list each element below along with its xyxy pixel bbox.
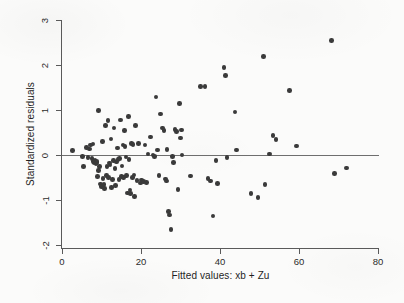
y-tick-label: -1 [38, 193, 52, 207]
data-point [177, 101, 182, 106]
data-point [267, 152, 272, 157]
data-point [109, 137, 114, 142]
data-point [188, 174, 193, 179]
data-point [144, 180, 149, 185]
data-point [100, 139, 105, 144]
data-point [91, 142, 96, 147]
data-point [249, 191, 254, 196]
y-axis-title: Standardized residuals [24, 20, 38, 248]
y-tick-label: -2 [38, 238, 52, 252]
data-point [294, 144, 299, 149]
data-point [162, 128, 167, 133]
y-tick-label: 0 [38, 148, 52, 162]
y-tick-mark [56, 110, 61, 111]
data-point [81, 164, 86, 169]
x-tick-mark [220, 249, 221, 254]
data-point [178, 136, 183, 141]
data-point [108, 163, 113, 168]
data-point [170, 154, 175, 159]
data-point [96, 168, 101, 173]
data-point [164, 179, 169, 184]
data-point [102, 186, 107, 191]
data-point [124, 173, 129, 178]
y-tick-mark [56, 200, 61, 201]
y-tick-label: 2 [38, 58, 52, 72]
data-point [110, 177, 115, 182]
data-point [123, 144, 128, 149]
data-point [263, 182, 268, 187]
data-point [132, 194, 137, 199]
data-point [167, 213, 172, 218]
data-point [115, 146, 120, 151]
data-point [332, 171, 337, 176]
data-point [233, 110, 238, 115]
data-point [152, 154, 157, 159]
data-point [122, 128, 127, 133]
x-tick-mark [62, 249, 63, 254]
data-point [143, 143, 148, 148]
y-tick-label: 3 [38, 13, 52, 27]
data-point [223, 73, 228, 78]
data-point [234, 148, 239, 153]
data-point [126, 114, 131, 119]
data-point [171, 160, 176, 165]
data-point [261, 54, 266, 59]
data-point [165, 147, 170, 152]
data-point [133, 123, 138, 128]
x-tick-label: 60 [294, 256, 305, 267]
data-point [176, 187, 181, 192]
data-point [117, 156, 122, 161]
data-point [103, 123, 108, 128]
data-point [211, 214, 216, 219]
data-point [113, 166, 118, 171]
data-point [70, 148, 75, 153]
data-point [155, 148, 160, 153]
scatter-plot-figure: -2-10123 020406080 Standardized residual… [0, 0, 404, 303]
data-point [225, 155, 230, 160]
x-tick-label: 80 [373, 256, 384, 267]
y-tick-mark [56, 245, 61, 246]
data-point [80, 154, 85, 159]
data-point [120, 164, 125, 169]
plot-area [62, 20, 378, 248]
x-tick-mark [141, 249, 142, 254]
data-point [274, 137, 279, 142]
data-point [106, 118, 111, 123]
data-point [215, 181, 220, 186]
data-point [179, 128, 184, 133]
data-point [329, 38, 334, 43]
data-point [146, 152, 151, 157]
data-point [112, 126, 117, 131]
data-point [97, 164, 102, 169]
data-point [118, 118, 123, 123]
y-tick-label: 1 [38, 103, 52, 117]
data-point [127, 157, 132, 162]
data-point [148, 135, 153, 140]
data-point [169, 227, 174, 232]
x-tick-mark [378, 249, 379, 254]
data-point [208, 179, 213, 184]
data-point [180, 153, 185, 158]
x-tick-label: 0 [59, 256, 64, 267]
data-point [95, 174, 100, 179]
data-point [214, 158, 219, 163]
y-tick-mark [56, 65, 61, 66]
data-point [136, 141, 141, 146]
data-point [131, 142, 136, 147]
data-point [87, 147, 92, 152]
data-point [198, 84, 203, 89]
data-point [158, 112, 163, 117]
x-tick-label: 20 [136, 256, 147, 267]
data-point [256, 195, 261, 200]
data-point [287, 88, 292, 93]
data-point [96, 108, 101, 113]
data-point [344, 166, 349, 171]
data-point [157, 173, 162, 178]
y-tick-mark [56, 20, 61, 21]
data-point [154, 95, 159, 100]
y-tick-mark [56, 155, 61, 156]
x-tick-mark [299, 249, 300, 254]
data-point [132, 173, 137, 178]
x-tick-label: 40 [215, 256, 226, 267]
data-point [222, 65, 227, 70]
